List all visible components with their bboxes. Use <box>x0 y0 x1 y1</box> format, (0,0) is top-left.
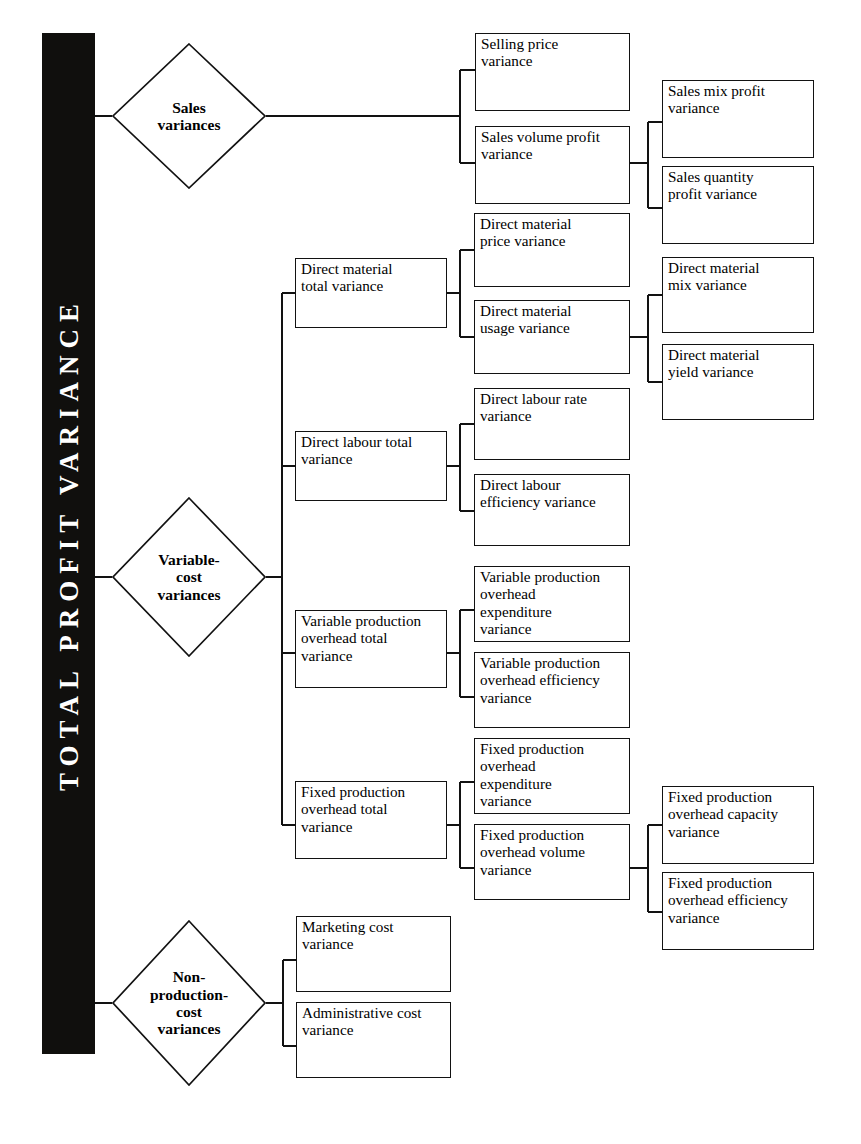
node-label: Non- production- cost variances <box>112 920 266 1086</box>
node-label: Fixed production overhead efficiency var… <box>668 874 810 926</box>
node-selling-price-variance: Selling price variance <box>475 33 630 111</box>
node-label: Administrative cost variance <box>302 1004 447 1039</box>
node-fixed-production-overhead-total-variance: Fixed production overhead total variance <box>295 781 447 859</box>
node-administrative-cost-variance: Administrative cost variance <box>296 1002 451 1078</box>
node-label: Direct material total variance <box>301 260 443 295</box>
node-label: Direct material usage variance <box>480 302 626 337</box>
node-fixed-production-overhead-expenditure-variance: Fixed production overhead expenditure va… <box>474 738 630 814</box>
node-direct-material-usage-variance: Direct material usage variance <box>474 300 630 374</box>
node-direct-material-total-variance: Direct material total variance <box>295 258 447 328</box>
node-direct-material-yield-variance: Direct material yield variance <box>662 344 814 420</box>
node-label: Variable production overhead total varia… <box>301 612 443 664</box>
node-label: Sales mix profit variance <box>668 82 810 117</box>
variance-tree-diagram: TOTAL PROFIT VARIANCE Sales variances Va… <box>0 0 861 1144</box>
node-label: Direct material price variance <box>480 215 626 250</box>
node-variable-production-overhead-efficiency-variance: Variable production overhead efficiency … <box>474 652 630 728</box>
node-direct-material-mix-variance: Direct material mix variance <box>662 257 814 333</box>
node-label: Fixed production overhead total variance <box>301 783 443 835</box>
node-direct-labour-total-variance: Direct labour total variance <box>295 431 447 501</box>
node-label: Variable- cost variances <box>112 497 266 657</box>
node-label: Sales volume profit variance <box>481 128 626 163</box>
node-label: Sales quantity profit variance <box>668 168 810 203</box>
node-fixed-production-overhead-capacity-variance: Fixed production overhead capacity varia… <box>662 786 814 864</box>
node-label: Variable production overhead expenditure… <box>480 568 626 637</box>
node-variable-production-overhead-total-variance: Variable production overhead total varia… <box>295 610 447 688</box>
node-label: Variable production overhead efficiency … <box>480 654 626 706</box>
node-variable-cost-variances: Variable- cost variances <box>112 497 266 657</box>
node-label: Direct material mix variance <box>668 259 810 294</box>
node-marketing-cost-variance: Marketing cost variance <box>296 916 451 992</box>
node-label: Fixed production overhead volume varianc… <box>480 826 626 878</box>
node-label: Direct labour rate variance <box>480 390 626 425</box>
node-variable-production-overhead-expenditure-variance: Variable production overhead expenditure… <box>474 566 630 642</box>
node-label: Sales variances <box>112 43 266 189</box>
node-fixed-production-overhead-volume-variance: Fixed production overhead volume varianc… <box>474 824 630 900</box>
node-sales-volume-profit-variance: Sales volume profit variance <box>475 126 630 204</box>
node-label: Fixed production overhead capacity varia… <box>668 788 810 840</box>
node-label: Direct labour efficiency variance <box>480 476 626 511</box>
node-direct-material-price-variance: Direct material price variance <box>474 213 630 287</box>
node-label: Selling price variance <box>481 35 626 70</box>
node-sales-quantity-profit-variance: Sales quantity profit variance <box>662 166 814 244</box>
node-sales-variances: Sales variances <box>112 43 266 189</box>
root-node-label: TOTAL PROFIT VARIANCE <box>53 296 84 790</box>
node-non-production-cost-variances: Non- production- cost variances <box>112 920 266 1086</box>
node-label: Fixed production overhead expenditure va… <box>480 740 626 809</box>
node-label: Direct labour total variance <box>301 433 443 468</box>
node-direct-labour-rate-variance: Direct labour rate variance <box>474 388 630 460</box>
node-direct-labour-efficiency-variance: Direct labour efficiency variance <box>474 474 630 546</box>
node-sales-mix-profit-variance: Sales mix profit variance <box>662 80 814 158</box>
root-node-total-profit-variance: TOTAL PROFIT VARIANCE <box>42 33 95 1054</box>
node-label: Direct material yield variance <box>668 346 810 381</box>
node-fixed-production-overhead-efficiency-variance: Fixed production overhead efficiency var… <box>662 872 814 950</box>
node-label: Marketing cost variance <box>302 918 447 953</box>
